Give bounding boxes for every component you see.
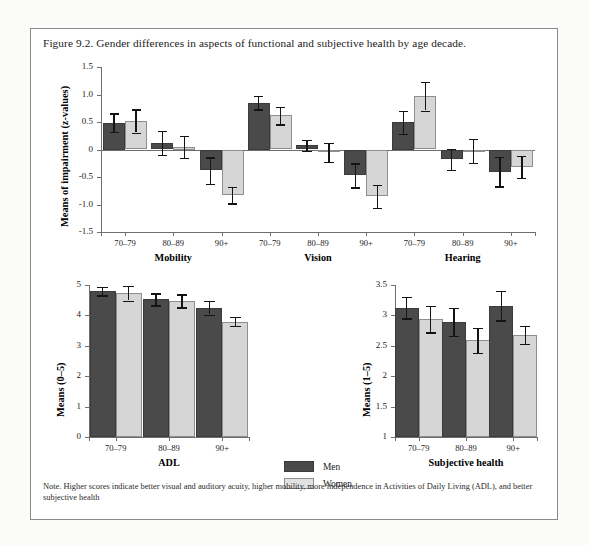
bar-women (169, 301, 195, 437)
error-bar (499, 157, 500, 187)
error-bar-cap (495, 186, 504, 187)
error-bar (430, 306, 431, 333)
error-bar-cap (204, 315, 215, 316)
error-bar-cap (276, 124, 285, 125)
x-axis-tick (222, 437, 223, 441)
error-bar-cap (469, 139, 478, 140)
error-bar-cap (449, 308, 459, 309)
y-axis-tick (97, 177, 101, 178)
error-bar-cap (276, 107, 285, 108)
y-axis-tick (97, 122, 101, 123)
error-bar-cap (123, 301, 134, 302)
error-bar (377, 185, 378, 208)
error-bar (521, 156, 522, 178)
error-bar-cap (177, 307, 188, 308)
error-bar-cap (426, 306, 436, 307)
error-bar (135, 109, 136, 132)
error-bar-cap (426, 332, 436, 333)
y-axis-tick-label: 2.5 (353, 340, 387, 350)
y-axis-tick (85, 346, 89, 347)
x-axis-tick-label: 90+ (479, 443, 547, 453)
legend-swatch-men-icon (284, 461, 314, 472)
legend-item-men: Men (284, 461, 352, 472)
error-bar-cap (324, 143, 333, 144)
y-axis-tick (85, 407, 89, 408)
error-bar (162, 131, 163, 155)
x-axis-tick-label: 90+ (477, 238, 545, 248)
chart-impairment: 1.51.00.50-0.5-1.0-1.5Means of impairmen… (49, 59, 541, 274)
error-bar-cap (158, 155, 167, 156)
x-axis-tick (270, 232, 271, 236)
error-bar-cap (351, 187, 360, 188)
error-bar-cap (132, 109, 141, 110)
error-bar-cap (373, 185, 382, 186)
error-bar-cap (421, 111, 430, 112)
x-axis-tick (537, 437, 538, 441)
error-bar-cap (421, 82, 430, 83)
error-bar-cap (302, 151, 311, 152)
bar-men (143, 299, 169, 437)
error-bar-cap (402, 297, 412, 298)
error-bar (451, 149, 452, 170)
error-bar-cap (517, 156, 526, 157)
error-bar (403, 111, 404, 134)
chart-adl: 543210Means (0–5)70–7980–8990+ADL (49, 277, 261, 477)
error-bar-cap (254, 109, 263, 110)
error-bar (355, 163, 356, 187)
error-bar-cap (496, 320, 506, 321)
y-axis-tick (85, 376, 89, 377)
x-axis-tick (318, 232, 319, 236)
x-axis-tick (169, 437, 170, 441)
error-bar-cap (177, 294, 188, 295)
error-bar-cap (151, 293, 162, 294)
x-axis-tick (414, 232, 415, 236)
error-bar (155, 293, 156, 305)
error-bar (501, 291, 502, 320)
error-bar (425, 82, 426, 111)
error-bar-cap (110, 113, 119, 114)
error-bar-cap (151, 305, 162, 306)
error-bar-cap (158, 131, 167, 132)
figure-frame: Figure 9.2. Gender differences in aspect… (30, 28, 558, 520)
group-label: Mobility (113, 252, 233, 263)
legend-label-men: Men (323, 462, 340, 472)
error-bar-cap (449, 336, 459, 337)
error-bar-cap (520, 344, 530, 345)
error-bar-cap (520, 326, 530, 327)
y-axis-tick-label: 4 (47, 309, 81, 319)
error-bar (113, 113, 114, 132)
error-bar-cap (123, 286, 134, 287)
x-axis-tick (222, 232, 223, 236)
error-bar (232, 187, 233, 204)
x-axis-tick (511, 232, 512, 236)
y-axis-tick (97, 205, 101, 206)
group-label: Hearing (403, 252, 523, 263)
y-axis-tick-label: 3.5 (353, 279, 387, 289)
error-bar (128, 286, 129, 301)
y-axis-title: Means of impairment (z-values) (59, 86, 70, 227)
error-bar-cap (180, 158, 189, 159)
error-bar-cap (97, 287, 108, 288)
error-bar-cap (402, 318, 412, 319)
x-axis-tick (463, 232, 464, 236)
bar-men (395, 308, 419, 438)
error-bar-cap (228, 187, 237, 188)
x-axis-tick (89, 437, 90, 441)
error-bar-cap (230, 317, 241, 318)
error-bar-cap (230, 326, 241, 327)
error-bar-cap (496, 291, 506, 292)
bar-women (116, 293, 142, 437)
x-axis-tick (395, 437, 396, 441)
error-bar (181, 294, 182, 307)
error-bar-cap (110, 132, 119, 133)
error-bar-cap (373, 208, 382, 209)
y-axis-tick (85, 315, 89, 316)
error-bar (280, 107, 281, 125)
error-bar-cap (204, 301, 215, 302)
y-axis-tick-label: 0 (47, 431, 81, 441)
bar-men (442, 322, 466, 438)
x-axis-tick (125, 232, 126, 236)
group-label: Vision (258, 252, 378, 263)
error-bar (258, 96, 259, 109)
bar-men (90, 291, 116, 437)
